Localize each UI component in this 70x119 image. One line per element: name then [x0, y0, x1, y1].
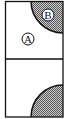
label-b: B — [42, 9, 54, 21]
svg-text:A: A — [24, 33, 32, 45]
label-a: A — [22, 33, 34, 45]
svg-text:B: B — [44, 9, 51, 21]
geometry-diagram: B A — [0, 0, 70, 119]
